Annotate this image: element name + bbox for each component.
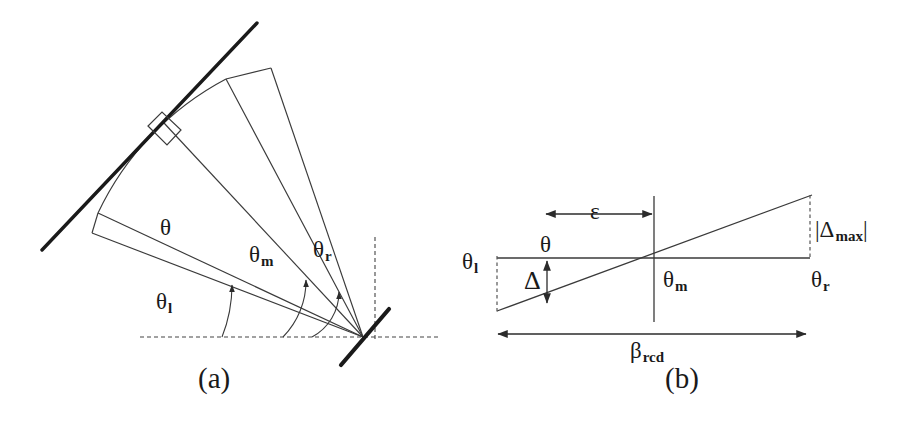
panel-b-label-beta-rcd: βrcd bbox=[630, 339, 664, 365]
panel-a-label-theta-r: θr bbox=[313, 238, 332, 264]
panel-a-sector-cap bbox=[226, 68, 271, 79]
panel-a-right-angle-marker bbox=[148, 112, 181, 145]
panel-a-tangent-line bbox=[42, 23, 257, 250]
panel-a-ray-upper-narrow bbox=[98, 213, 363, 337]
panel-b-label-theta-m: θm bbox=[663, 268, 688, 294]
panel-a-label-theta: θ bbox=[160, 216, 171, 239]
panel-b-group bbox=[497, 195, 812, 334]
panel-a-group bbox=[42, 23, 438, 365]
panel-a-caption: (a) bbox=[198, 362, 230, 395]
figure-canvas: θ θl θm θr (a) θl θ ε Δ θm |Δmax| θr βrc… bbox=[0, 0, 908, 422]
panel-b-label-epsilon: ε bbox=[590, 200, 600, 223]
panel-a-ray-theta-m bbox=[164, 123, 363, 337]
panel-b-label-theta: θ bbox=[540, 233, 551, 256]
panel-a-outer-arc-wedge bbox=[92, 213, 98, 233]
panel-b-label-theta-r: θr bbox=[811, 268, 830, 294]
panel-a-sector-outer-edge bbox=[271, 68, 363, 337]
panel-b-caption: (b) bbox=[665, 362, 699, 395]
panel-a-angle-arc-theta-l bbox=[222, 285, 232, 337]
panel-b-label-delta-max: |Δmax| bbox=[815, 218, 868, 244]
panel-a-ray-theta-r bbox=[226, 79, 363, 337]
figure-vector-layer bbox=[0, 0, 908, 422]
panel-b-label-theta-l: θl bbox=[462, 250, 478, 276]
panel-b-label-delta: Δ bbox=[524, 268, 541, 294]
panel-a-outer-arc bbox=[98, 79, 226, 213]
panel-a-label-theta-m: θm bbox=[249, 243, 274, 269]
panel-a-label-theta-l: θl bbox=[156, 290, 172, 316]
